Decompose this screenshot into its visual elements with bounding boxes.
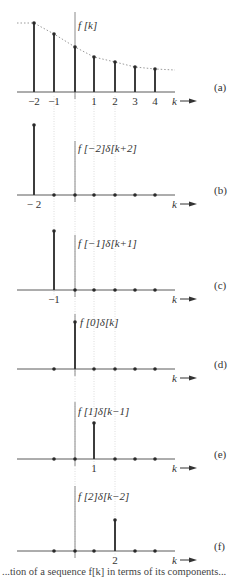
zero-sample-dot xyxy=(153,193,157,197)
panel-c: −1f [−1]δ[k+1]k(c) xyxy=(17,229,227,305)
zero-sample-dot xyxy=(133,193,137,197)
zero-sample-dot xyxy=(52,457,56,461)
panel-tag: (c) xyxy=(214,279,227,292)
panel-b: − 2f [−2]δ[k+2]k(b) xyxy=(17,123,227,210)
zero-sample-dot xyxy=(133,367,137,371)
zero-sample-dot xyxy=(153,367,157,371)
zero-sample-dot xyxy=(73,549,77,553)
stem-dot xyxy=(52,229,56,233)
k-axis-label: k xyxy=(172,554,178,566)
panel-title: f [0]δ[k] xyxy=(80,316,118,328)
tick-label: − 2 xyxy=(27,198,41,210)
tick-label: 1 xyxy=(91,95,97,107)
panel-tag: (a) xyxy=(214,81,227,94)
stem-dot xyxy=(92,421,96,425)
tick-label: −1 xyxy=(48,95,60,107)
arrow-right-icon xyxy=(189,376,197,381)
zero-sample-dot xyxy=(113,367,117,371)
stem-dot xyxy=(73,45,77,49)
zero-sample-dot xyxy=(153,288,157,292)
zero-sample-dot xyxy=(73,288,77,292)
arrow-right-icon xyxy=(189,466,197,471)
arrow-right-icon xyxy=(189,99,197,104)
zero-sample-dot xyxy=(92,193,96,197)
arrow-right-icon xyxy=(189,297,197,302)
stem-dot xyxy=(133,65,137,69)
stem-dot xyxy=(113,60,117,64)
zero-sample-dot xyxy=(113,288,117,292)
zero-sample-dot xyxy=(52,193,56,197)
panel-tag: (e) xyxy=(214,448,227,461)
panel-title: f [k] xyxy=(78,19,97,31)
zero-sample-dot xyxy=(133,288,137,292)
tick-label: 4 xyxy=(152,95,158,107)
panel-title: f [1]δ[k−1] xyxy=(78,405,129,417)
panel-f: 2f [2]δ[k−2]k(f) xyxy=(17,486,225,566)
zero-sample-dot xyxy=(92,367,96,371)
arrow-right-icon xyxy=(189,202,197,207)
zero-sample-dot xyxy=(153,549,157,553)
panel-tag: (b) xyxy=(214,184,227,197)
zero-sample-dot xyxy=(113,457,117,461)
panel-title: f [2]δ[k−2] xyxy=(78,490,129,502)
stem-dot xyxy=(92,55,96,59)
panel-tag: (f) xyxy=(214,540,225,553)
zero-sample-dot xyxy=(73,457,77,461)
panel-a: −2−11234f [k]k(a) xyxy=(17,12,227,107)
panel-tag: (d) xyxy=(214,358,227,371)
zero-sample-dot xyxy=(153,457,157,461)
stem-dot xyxy=(153,67,157,71)
tick-label: −1 xyxy=(48,293,60,305)
arrow-right-icon xyxy=(189,558,197,563)
zero-sample-dot xyxy=(133,457,137,461)
panel-title: f [−1]δ[k+1] xyxy=(78,237,137,249)
panel-e: 1f [1]δ[k−1]k(e) xyxy=(17,402,227,474)
panel-d: f [0]δ[k]k(d) xyxy=(17,314,227,384)
signal-decomposition-figure: −2−11234f [k]k(a)− 2f [−2]δ[k+2]k(b)−1f … xyxy=(0,0,240,579)
k-axis-label: k xyxy=(172,293,178,305)
k-axis-label: k xyxy=(172,372,178,384)
stem-dot xyxy=(113,518,117,522)
tick-label: 3 xyxy=(132,95,138,107)
k-axis-label: k xyxy=(172,198,178,210)
zero-sample-dot xyxy=(92,288,96,292)
zero-sample-dot xyxy=(133,549,137,553)
tick-label: −2 xyxy=(28,95,40,107)
figure-caption-partial: ...tion of a sequence f[k] in terms of i… xyxy=(2,566,226,577)
stem-dot xyxy=(32,123,36,127)
stem-dot xyxy=(32,21,36,25)
zero-sample-dot xyxy=(52,549,56,553)
k-axis-label: k xyxy=(172,95,178,107)
zero-sample-dot xyxy=(52,367,56,371)
zero-sample-dot xyxy=(92,549,96,553)
tick-label: 2 xyxy=(112,554,118,566)
zero-sample-dot xyxy=(113,193,117,197)
tick-label: 2 xyxy=(112,95,118,107)
k-axis-label: k xyxy=(172,462,178,474)
tick-label: 1 xyxy=(91,462,97,474)
panel-title: f [−2]δ[k+2] xyxy=(78,142,137,154)
zero-sample-dot xyxy=(73,193,77,197)
panels: −2−11234f [k]k(a)− 2f [−2]δ[k+2]k(b)−1f … xyxy=(17,12,227,566)
stem-dot xyxy=(52,32,56,36)
stem-dot xyxy=(73,320,77,324)
